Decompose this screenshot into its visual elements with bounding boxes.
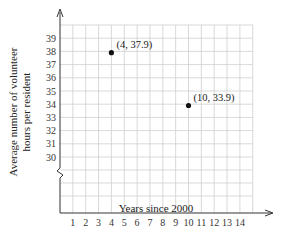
y-tick-label: 36 — [46, 72, 56, 83]
y-axis-label-line-2: hours per resident — [20, 48, 33, 177]
x-tick-label: 13 — [222, 217, 232, 226]
data-point-label: (10, 33.9) — [194, 92, 236, 104]
x-tick-label: 12 — [209, 217, 219, 226]
x-tick-label: 3 — [96, 217, 101, 226]
y-axis-label: Average number of volunteer hours per re… — [0, 0, 40, 226]
x-tick-label: 11 — [197, 217, 207, 226]
x-tick-label: 8 — [160, 217, 165, 226]
y-tick-label: 39 — [46, 33, 56, 44]
x-tick-label: 7 — [147, 217, 152, 226]
chart-canvas: 303132333435363738391234567891011121314(… — [0, 0, 282, 226]
x-axis-label: Years since 2000 — [0, 202, 282, 214]
x-tick-label: 9 — [173, 217, 178, 226]
y-axis-label-line-1: Average number of volunteer — [7, 48, 20, 177]
data-point — [109, 50, 114, 55]
y-tick-label: 37 — [46, 59, 56, 70]
x-tick-label: 4 — [109, 217, 114, 226]
y-tick-label: 30 — [46, 152, 56, 163]
scatter-chart: 303132333435363738391234567891011121314(… — [0, 0, 282, 226]
data-point — [186, 103, 191, 108]
y-tick-label: 32 — [46, 125, 56, 136]
x-tick-label: 2 — [83, 217, 88, 226]
y-tick-label: 33 — [46, 112, 56, 123]
x-tick-label: 5 — [122, 217, 127, 226]
data-point-label: (4, 37.9) — [116, 39, 152, 51]
x-tick-label: 6 — [135, 217, 140, 226]
y-tick-label: 34 — [46, 99, 56, 110]
x-tick-label: 14 — [235, 217, 245, 226]
y-tick-label: 31 — [46, 138, 56, 149]
y-tick-label: 38 — [46, 46, 56, 57]
y-tick-label: 35 — [46, 86, 56, 97]
x-tick-label: 1 — [70, 217, 75, 226]
x-tick-label: 10 — [184, 217, 194, 226]
